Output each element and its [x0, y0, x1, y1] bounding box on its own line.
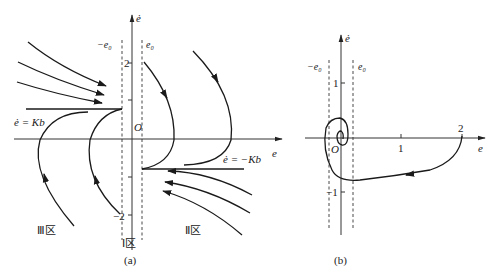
trajectory-a-4 — [38, 112, 88, 226]
trajectory-a-5 — [89, 109, 122, 214]
origin-label-a: O — [134, 121, 142, 133]
region-III-label: Ⅲ区 — [37, 224, 56, 236]
trajectory-a-2 — [18, 62, 104, 95]
tick-2-label-a: 2 — [124, 57, 130, 69]
neg-e0-label-b: −e₀ — [307, 61, 322, 72]
e-axis-label-b: e — [478, 142, 483, 154]
edot-axis-label-b: ė — [345, 32, 350, 44]
trajectory-a-8 — [168, 171, 252, 195]
trajectory-a-9 — [165, 182, 250, 213]
origin-label-b: O — [331, 143, 339, 155]
tick-ym1-label-b: −1 — [326, 186, 338, 198]
switch-upper-label: ė = Kb — [14, 116, 45, 128]
tick-x2-label-b: 2 — [458, 122, 464, 134]
region-I-label: Ⅰ区 — [122, 237, 136, 249]
caption-b: (b) — [334, 254, 347, 267]
trajectory-a-1 — [28, 42, 106, 86]
tick-y1-label-b: 1 — [333, 77, 339, 89]
region-II-label: Ⅱ区 — [185, 224, 201, 236]
edot-axis-label-a: ė — [136, 12, 141, 24]
pos-e0-label-b: e₀ — [358, 61, 366, 72]
trajectory-a-6 — [142, 62, 174, 169]
pos-e0-label-a: e₀ — [146, 39, 154, 50]
tick-x1-label-b: 1 — [398, 142, 404, 154]
trajectory-b-spiral — [325, 118, 462, 180]
trajectory-a-7 — [184, 51, 232, 165]
panel-b: ė e O −e₀ e₀ 1 2 1 −1 (b) — [305, 32, 485, 267]
trajectory-a-3 — [17, 82, 102, 103]
neg-e0-label-a: −e₀ — [97, 39, 112, 50]
arrow-a-4 — [44, 174, 45, 178]
e-axis-label-a: e — [272, 147, 277, 159]
panel-a: ė e O −e₀ e₀ 2 −2 ė = Kb ė = −Kb Ⅲ区 Ⅱ区 Ⅰ… — [14, 12, 282, 267]
trajectory-a-10 — [163, 191, 242, 235]
switch-lower-label: ė = −Kb — [223, 153, 262, 165]
tick-m2-label-a: −2 — [113, 210, 125, 222]
caption-a: (a) — [124, 254, 137, 267]
phase-plane-figure: ė e O −e₀ e₀ 2 −2 ė = Kb ė = −Kb Ⅲ区 Ⅱ区 Ⅰ… — [0, 0, 498, 280]
